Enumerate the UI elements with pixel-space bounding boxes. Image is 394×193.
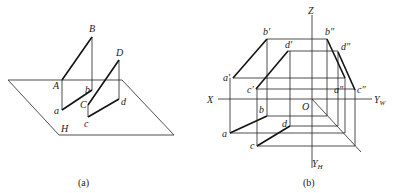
label-a: a	[222, 128, 227, 139]
axis-45-diagonal	[312, 99, 361, 152]
label-YH: YH	[312, 158, 324, 171]
label-b: b	[85, 84, 90, 95]
caption-b: (b)	[303, 177, 315, 189]
label-D: D	[115, 47, 124, 58]
label-a: a	[54, 105, 59, 116]
label-B: B	[89, 23, 95, 34]
label-d2: d"	[341, 41, 351, 52]
label-C: C	[80, 99, 87, 110]
segment-ab	[62, 37, 92, 80]
label-H: H	[60, 123, 69, 134]
front-ab	[233, 39, 267, 78]
top-ab	[230, 116, 267, 133]
label-A: A	[52, 80, 60, 91]
label-a1: a'	[223, 72, 231, 83]
label-b2: b"	[325, 26, 335, 37]
label-c: c	[84, 118, 89, 129]
horizontal-plane-h	[8, 80, 174, 135]
label-c1: c'	[247, 84, 254, 95]
label-Z: Z	[308, 5, 314, 16]
figure-b: Z X O YW YH b' b" d' d" a' c' a" c" b d …	[206, 5, 387, 189]
segment-cd	[88, 60, 119, 105]
label-b1: b'	[263, 26, 271, 37]
projection-diagram: B D A b a C c d H (a)	[0, 0, 394, 193]
top-cd	[257, 126, 290, 146]
label-X: X	[206, 94, 214, 105]
label-a2: a"	[334, 84, 344, 95]
label-O: O	[302, 101, 309, 112]
label-d: d	[121, 96, 127, 107]
label-d1: d'	[285, 39, 293, 50]
label-c2: c"	[357, 84, 366, 95]
label-YW: YW	[374, 94, 387, 107]
label-c: c	[250, 140, 255, 151]
caption-a: (a)	[78, 177, 89, 189]
figure-a: B D A b a C c d H (a)	[8, 23, 174, 189]
front-cd	[256, 51, 288, 89]
label-b: b	[259, 104, 264, 115]
projection-cd	[88, 99, 119, 117]
